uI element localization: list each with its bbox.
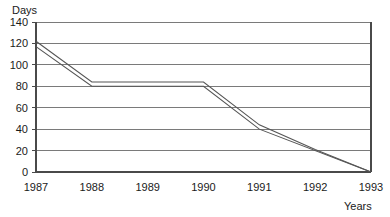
y-tick-label: 120 <box>2 38 28 49</box>
x-tick-label: 1992 <box>295 182 335 193</box>
y-tick-label: 80 <box>2 81 28 92</box>
series-line-lower-line <box>36 47 371 172</box>
x-tick-label: 1991 <box>239 182 279 193</box>
x-tick-label: 1989 <box>128 182 168 193</box>
x-tick-label: 1987 <box>16 182 56 193</box>
x-tick-label: 1988 <box>72 182 112 193</box>
x-tick-label: 1993 <box>351 182 390 193</box>
y-tick-label: 20 <box>2 146 28 157</box>
axis-lines <box>32 22 371 172</box>
data-series-lines <box>36 41 371 172</box>
line-chart: Days Years 020406080100120140 1987198819… <box>0 0 390 217</box>
x-tick-label: 1990 <box>184 182 224 193</box>
y-tick-label: 60 <box>2 103 28 114</box>
y-tick-label: 0 <box>2 167 28 178</box>
y-tick-label: 40 <box>2 124 28 135</box>
y-tick-label: 100 <box>2 60 28 71</box>
y-tick-label: 140 <box>2 17 28 28</box>
